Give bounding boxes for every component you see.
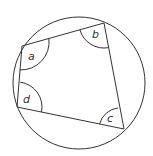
- angle-label-a: a: [28, 50, 35, 63]
- angle-label-b: b: [92, 28, 99, 41]
- angle-label-d: d: [23, 93, 31, 106]
- angle-label-c: c: [107, 112, 113, 125]
- cyclic-quadrilateral-diagram: a b c d: [0, 0, 153, 156]
- circumscribed-circle: [13, 17, 145, 149]
